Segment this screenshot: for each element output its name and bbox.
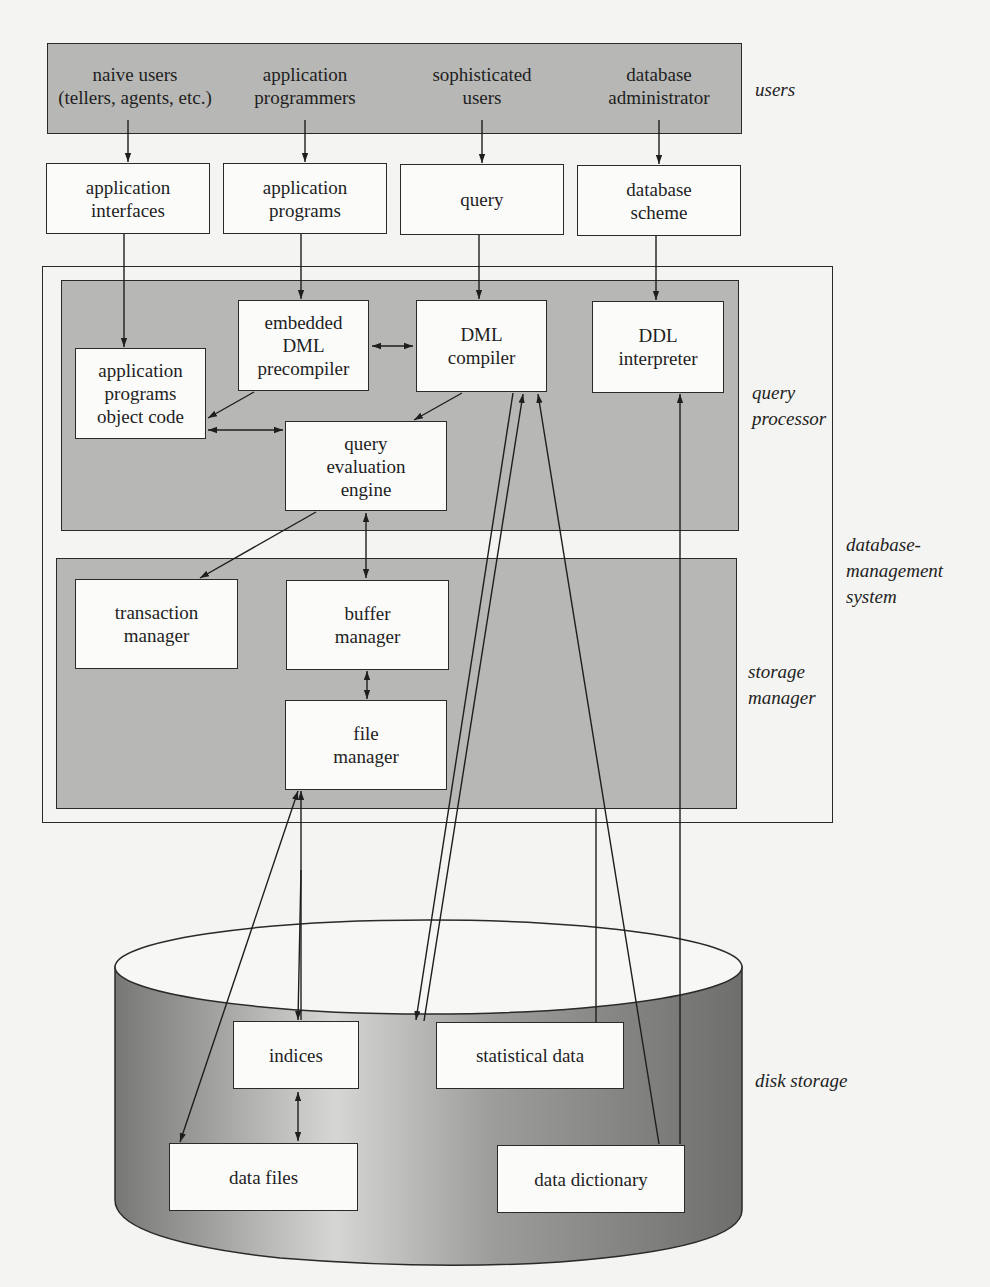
data-dictionary-box: data dictionary xyxy=(497,1145,685,1213)
data-files-box: data files xyxy=(169,1143,358,1211)
disk-storage-label: disk storage xyxy=(755,1068,847,1094)
statistical-data-box: statistical data xyxy=(436,1022,624,1089)
database-system-structure-diagram: naive users (tellers, agents, etc.) appl… xyxy=(0,0,990,1287)
indices-box: indices xyxy=(233,1021,359,1089)
